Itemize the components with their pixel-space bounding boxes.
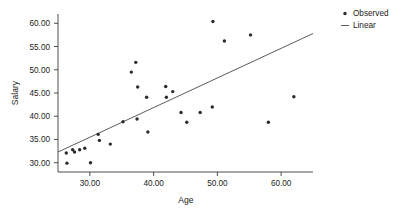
chart-legend: ObservedLinear xyxy=(341,9,389,30)
data-point xyxy=(146,130,149,133)
y-tick-label: 45.00 xyxy=(30,89,51,98)
data-point xyxy=(292,95,295,98)
x-tick-label: 30.00 xyxy=(80,179,101,188)
scatter-chart: 30.0035.0040.0045.0050.0055.0060.00 30.0… xyxy=(0,0,401,209)
data-point xyxy=(78,148,81,151)
data-point xyxy=(130,70,133,73)
y-tick-label: 55.00 xyxy=(30,43,51,52)
legend-label: Observed xyxy=(353,9,389,18)
x-axis-ticks: 30.0040.0050.0060.00 xyxy=(80,172,292,188)
data-point xyxy=(96,133,99,136)
data-point xyxy=(135,117,138,120)
data-point xyxy=(198,111,201,114)
data-point xyxy=(73,150,76,153)
regression-line xyxy=(58,34,313,153)
data-point xyxy=(185,121,188,124)
data-points-group xyxy=(65,20,296,165)
data-point xyxy=(89,161,92,164)
data-point xyxy=(165,95,168,98)
data-point xyxy=(223,39,226,42)
y-tick-label: 60.00 xyxy=(30,19,51,28)
y-axis-title: Salary xyxy=(10,80,20,105)
x-tick-label: 40.00 xyxy=(143,179,164,188)
data-point xyxy=(179,111,182,114)
data-point xyxy=(171,90,174,93)
y-tick-label: 35.00 xyxy=(30,135,51,144)
data-point xyxy=(136,85,139,88)
data-point xyxy=(121,120,124,123)
data-point xyxy=(267,121,270,124)
y-tick-label: 40.00 xyxy=(30,112,51,121)
legend-label: Linear xyxy=(353,21,376,30)
y-axis-ticks: 30.0035.0040.0045.0050.0055.0060.00 xyxy=(30,19,59,167)
data-point xyxy=(134,61,137,64)
data-point xyxy=(109,142,112,145)
data-point xyxy=(164,85,167,88)
data-point xyxy=(145,95,148,98)
y-tick-label: 30.00 xyxy=(30,159,51,168)
x-axis-title: Age xyxy=(178,195,194,205)
x-tick-label: 60.00 xyxy=(271,179,292,188)
chart-canvas: 30.0035.0040.0045.0050.0055.0060.00 30.0… xyxy=(0,0,401,209)
x-tick-label: 50.00 xyxy=(207,179,228,188)
legend-marker-observed xyxy=(343,12,346,15)
data-point xyxy=(65,161,68,164)
data-point xyxy=(211,105,214,108)
y-tick-label: 50.00 xyxy=(30,66,51,75)
data-point xyxy=(249,33,252,36)
data-point xyxy=(83,147,86,150)
data-point xyxy=(65,151,68,154)
regression-line-group xyxy=(58,34,313,153)
data-point xyxy=(211,20,214,23)
data-point xyxy=(98,139,101,142)
